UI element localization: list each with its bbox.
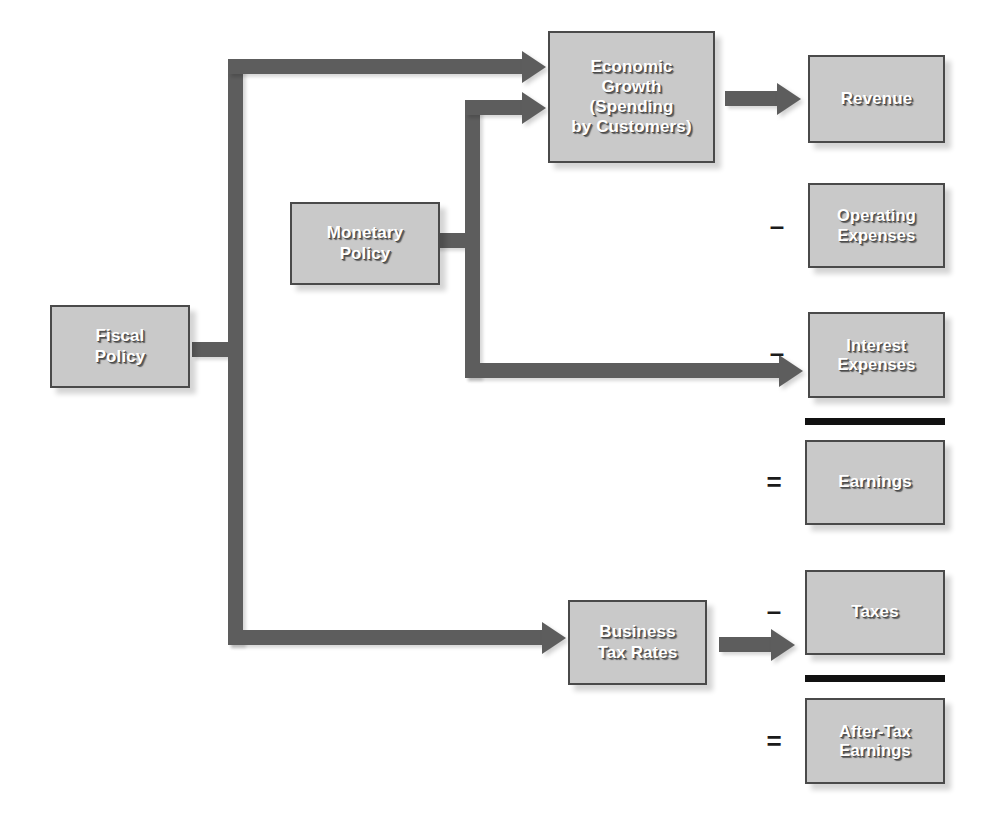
node-operating-expenses[interactable]: Operating Expenses <box>808 183 945 268</box>
node-revenue-label: Revenue <box>836 89 918 109</box>
node-earnings[interactable]: Earnings <box>805 440 945 525</box>
operator-minus-taxes: – <box>762 598 786 624</box>
node-taxes[interactable]: Taxes <box>805 570 945 655</box>
operator-equals-after-tax-earnings: = <box>762 728 786 754</box>
node-interest-expenses[interactable]: Interest Expenses <box>808 312 945 398</box>
connector-fiscal-to-economic-growth-horizontal <box>228 59 528 74</box>
connector-economic-growth-to-revenue <box>725 91 781 106</box>
node-revenue[interactable]: Revenue <box>808 55 945 143</box>
arrowhead-fiscal-to-economic-growth <box>522 51 546 83</box>
node-interest-expenses-label: Interest Expenses <box>833 336 921 375</box>
node-business-tax-rates[interactable]: Business Tax Rates <box>568 600 707 685</box>
node-earnings-label: Earnings <box>833 472 917 492</box>
node-monetary-policy-label: Monetary Policy <box>322 223 408 263</box>
node-fiscal-policy[interactable]: Fiscal Policy <box>50 305 190 388</box>
node-after-tax-earnings-label: After-Tax Earnings <box>834 722 916 761</box>
node-after-tax-earnings[interactable]: After-Tax Earnings <box>805 698 945 784</box>
connector-monetary-to-interest-expenses-horizontal <box>465 363 785 378</box>
operator-minus-operating-expenses: – <box>765 213 789 239</box>
connector-monetary-trunk-vertical <box>465 100 480 378</box>
connector-business-tax-rates-to-taxes <box>719 637 775 652</box>
diagram-canvas: Fiscal Policy Monetary Policy Economic G… <box>0 0 994 818</box>
operator-minus-interest-expenses: – <box>765 340 789 366</box>
node-monetary-policy[interactable]: Monetary Policy <box>290 202 440 285</box>
operator-equals-earnings: = <box>762 469 786 495</box>
arrowhead-economic-growth-to-revenue <box>777 83 801 115</box>
arrowhead-business-tax-rates-to-taxes <box>771 629 795 661</box>
node-fiscal-policy-label: Fiscal Policy <box>90 326 151 366</box>
node-operating-expenses-label: Operating Expenses <box>832 206 921 245</box>
node-economic-growth-label: Economic Growth (Spending by Customers) <box>566 57 696 137</box>
connector-fiscal-trunk-vertical <box>228 59 243 645</box>
summation-rule-after-tax-earnings <box>805 675 945 682</box>
summation-rule-earnings <box>805 418 945 425</box>
node-business-tax-rates-label: Business Tax Rates <box>593 622 683 662</box>
node-taxes-label: Taxes <box>846 602 903 622</box>
connector-monetary-to-economic-growth-horizontal <box>465 100 528 115</box>
connector-fiscal-to-business-tax-rates-horizontal <box>228 630 548 645</box>
arrowhead-fiscal-to-business-tax-rates <box>542 622 566 654</box>
arrowhead-monetary-to-economic-growth <box>522 92 546 124</box>
node-economic-growth[interactable]: Economic Growth (Spending by Customers) <box>548 31 715 163</box>
